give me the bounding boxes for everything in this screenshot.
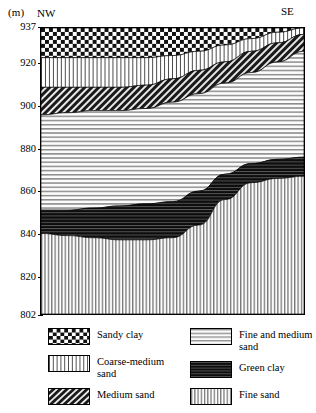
legend-label: Medium sand: [97, 388, 154, 401]
legend-item: Fine and medium sand: [190, 328, 314, 352]
y-axis-tick-label: 840: [6, 229, 36, 240]
legend-swatch-horizontal-dark: [190, 361, 232, 378]
direction-label-nw: NW: [37, 7, 55, 19]
cross-section-plot: [40, 27, 305, 315]
legend-swatch-diagonal: [48, 388, 90, 405]
legend-item: Green clay: [190, 361, 314, 379]
legend-label: Coarse-medium sand: [97, 355, 164, 379]
legend: Sandy clayCoarse-medium sandMedium sand …: [0, 328, 316, 413]
legend-column-left: Sandy clayCoarse-medium sandMedium sand: [48, 328, 188, 413]
y-axis-tick-label: 860: [6, 186, 36, 197]
legend-item: Fine sand: [190, 388, 314, 406]
y-axis-tick-label: 820: [6, 271, 36, 282]
legend-column-right: Fine and medium sandGreen clayFine sand: [190, 328, 314, 413]
legend-swatch-horizontal: [190, 328, 232, 345]
stratigraphic-layers: [41, 28, 304, 314]
y-axis-tick-label: 900: [6, 101, 36, 112]
legend-label: Sandy clay: [97, 328, 143, 341]
y-axis-tick-label: 880: [6, 143, 36, 154]
y-axis-tick-label: 937: [6, 22, 36, 33]
legend-item: Medium sand: [48, 388, 188, 406]
legend-label: Green clay: [239, 361, 285, 374]
geological-cross-section-figure: (m) NW SE 937920900880860840820802: [0, 0, 316, 413]
legend-swatch-checker: [48, 328, 90, 345]
direction-label-se: SE: [281, 5, 294, 17]
legend-item: Coarse-medium sand: [48, 355, 188, 379]
y-axis-tick-mark: [38, 315, 43, 316]
legend-label: Fine sand: [239, 388, 280, 401]
legend-swatch-vertical: [190, 388, 232, 405]
legend-swatch-vertical-fine: [48, 355, 90, 372]
legend-label: Fine and medium sand: [239, 328, 313, 352]
y-axis-tick-label: 920: [6, 58, 36, 69]
y-axis-tick-label: 802: [6, 310, 36, 321]
legend-item: Sandy clay: [48, 328, 188, 346]
